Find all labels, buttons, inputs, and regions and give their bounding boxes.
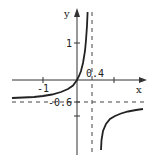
y-axis-arrow-icon [74,8,80,17]
curve-right-branch [101,109,143,150]
asymptote-y-label: -0.6 [48,97,72,108]
asymptote-x-label: 0.4 [86,68,104,79]
y-axis-label: y [63,8,70,19]
function-graph: y x 1 -1 0.4 -0.6 [0,0,161,166]
x-axis-arrow-icon [139,77,147,83]
tick-label-x-neg1: -1 [37,83,49,94]
curve-left-branch [12,12,88,98]
tick-label-y-1: 1 [66,38,72,49]
x-axis-label: x [136,84,142,95]
